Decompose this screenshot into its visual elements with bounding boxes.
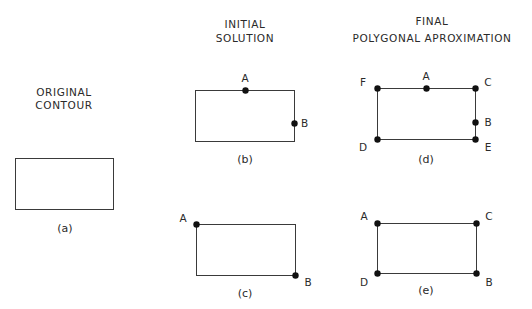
header-final-line1: FINAL (415, 15, 448, 27)
caption-b: (b) (237, 153, 253, 166)
vertex-dot-d-d (374, 136, 380, 142)
vertex-label-e-c: C (485, 210, 492, 222)
vertex-label-b-b: B (301, 117, 308, 129)
vertex-dot-e-d (374, 270, 380, 276)
contour-rectangle-c (197, 225, 296, 276)
panel-a: (a) (16, 159, 114, 236)
vertex-label-d-c: C (484, 76, 491, 88)
vertex-dot-e-c (473, 220, 479, 226)
vertex-label-d-b: B (484, 116, 491, 128)
vertex-dot-b-a (242, 87, 248, 93)
vertex-dot-b-b (291, 120, 297, 126)
header-initial-line1: INITIAL (225, 18, 266, 30)
vertex-dot-d-c (472, 85, 478, 91)
caption-c: (c) (238, 287, 253, 300)
caption-a: (a) (57, 222, 72, 235)
vertex-dot-d-b (472, 119, 478, 125)
caption-e: (e) (418, 284, 433, 297)
vertex-dot-c-a (193, 221, 199, 227)
polygonal-approximation-diagram: ORIGINAL CONTOUR INITIAL SOLUTION FINAL … (0, 0, 532, 309)
caption-d: (d) (418, 153, 434, 166)
panel-b: AB(b) (196, 72, 309, 166)
vertex-dot-e-a (374, 220, 380, 226)
panel-e: ACDB(e) (360, 210, 493, 297)
vertex-label-c-b: B (304, 276, 311, 288)
panel-d: FACBDE(d) (359, 70, 492, 166)
vertex-dot-e-b (473, 270, 479, 276)
contour-rectangle-a (16, 159, 114, 210)
vertex-label-d-f: F (360, 76, 366, 88)
contour-rectangle-e (378, 224, 477, 274)
vertex-label-d-d: D (359, 141, 367, 153)
vertex-dot-d-e (472, 136, 478, 142)
vertex-label-e-d: D (360, 276, 368, 288)
vertex-label-e-a: A (360, 210, 368, 222)
panel-c: AB(c) (179, 212, 311, 300)
vertex-label-d-e: E (485, 141, 492, 153)
vertex-label-b-a: A (241, 72, 249, 84)
header-final-line2: POLYGONAL APROXIMATION (352, 32, 511, 44)
vertex-label-c-a: A (179, 212, 187, 224)
header-original-line2: CONTOUR (35, 99, 92, 111)
contour-rectangle-d (378, 89, 476, 140)
contour-rectangle-b (196, 91, 295, 142)
vertex-label-e-b: B (485, 276, 492, 288)
vertex-dot-c-b (292, 272, 298, 278)
header-initial-line2: SOLUTION (216, 32, 274, 44)
vertex-dot-d-a (423, 85, 429, 91)
header-original-line1: ORIGINAL (36, 86, 92, 98)
vertex-label-d-a: A (422, 70, 430, 82)
vertex-dot-d-f (374, 85, 380, 91)
